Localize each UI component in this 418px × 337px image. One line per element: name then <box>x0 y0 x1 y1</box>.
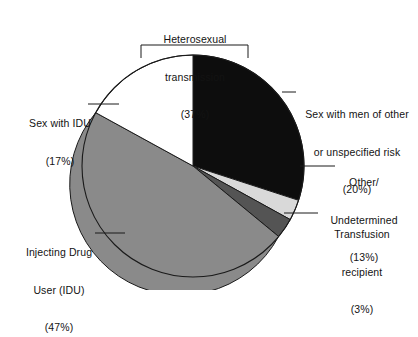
label-line-1: Sex with men of other <box>296 108 418 121</box>
label-line-1: Transfusion <box>310 228 414 241</box>
label-line-1: Injecting Drug <box>2 246 116 259</box>
label-line-2: recipient <box>310 266 414 279</box>
slice-label-injecting-drug-user: Injecting Drug User (IDU) (47%) <box>2 221 116 337</box>
slice-label-sex-with-idu: Sex with IDU (17%) <box>8 92 112 192</box>
label-line-1: Heterosexual <box>139 33 251 46</box>
label-line-2: User (IDU) <box>2 284 116 297</box>
label-percent: (47%) <box>2 321 116 334</box>
label-line-1: Other/ <box>312 176 416 189</box>
label-percent: (17%) <box>8 155 112 168</box>
label-line-1: Sex with IDU <box>8 117 112 130</box>
slice-label-heterosexual-transmission: Heterosexual transmission (37%) <box>139 8 251 146</box>
slice-label-transfusion-recipient: Transfusion recipient (3%) <box>310 203 414 337</box>
label-percent: (37%) <box>139 108 251 121</box>
label-line-2: transmission <box>139 71 251 84</box>
label-percent: (3%) <box>310 303 414 316</box>
